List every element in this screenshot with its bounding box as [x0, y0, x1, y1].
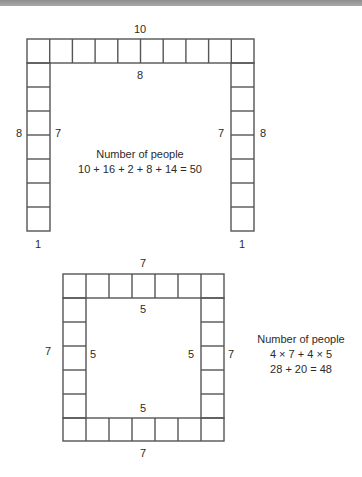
u-right-bottom-label: 1: [239, 238, 245, 250]
sq-left-outer-label: 7: [45, 345, 51, 357]
square-grid: [63, 274, 224, 441]
u-top-inner-label: 8: [137, 69, 143, 81]
sq-top-inner-label: 5: [140, 303, 146, 315]
sq-left-inner-label: 5: [90, 348, 96, 360]
sq-caption-title: Number of people: [257, 332, 344, 347]
u-left-inner-label: 7: [55, 127, 61, 139]
diagram-grids: [0, 0, 362, 477]
sq-caption-line1: 4 × 7 + 4 × 5: [257, 347, 344, 362]
u-top-outer-label: 10: [134, 23, 146, 35]
sq-top-outer-label: 7: [140, 257, 146, 269]
sq-bottom-outer-label: 7: [140, 447, 146, 459]
sq-caption: Number of people 4 × 7 + 4 × 5 28 + 20 =…: [257, 332, 344, 377]
sq-right-inner-label: 5: [188, 348, 194, 360]
u-left-bottom-label: 1: [35, 238, 41, 250]
u-right-inner-label: 7: [218, 127, 224, 139]
u-caption-title: Number of people: [78, 147, 202, 162]
u-caption-equation: 10 + 16 + 2 + 8 + 14 = 50: [78, 162, 202, 177]
u-caption: Number of people 10 + 16 + 2 + 8 + 14 = …: [78, 147, 202, 177]
sq-caption-line2: 28 + 20 = 48: [257, 362, 344, 377]
u-right-outer-label: 8: [260, 127, 266, 139]
sq-right-outer-label: 7: [228, 348, 234, 360]
sq-bottom-inner-label: 5: [140, 402, 146, 414]
u-left-outer-label: 8: [16, 127, 22, 139]
